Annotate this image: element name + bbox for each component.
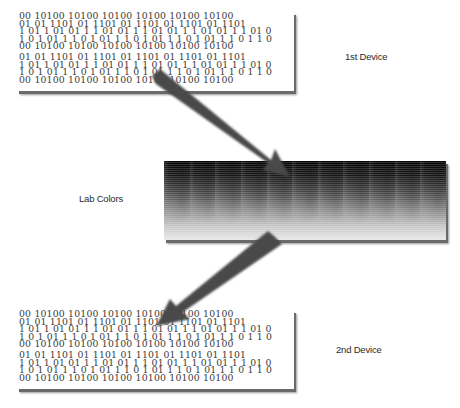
second-device-label: 2nd Device: [336, 344, 382, 355]
binary-group: 00 10100 10100 10100 10100 10100 10100 0…: [17, 310, 294, 348]
lab-column: [420, 161, 446, 240]
first-device-label: 1st Device: [345, 51, 387, 62]
binary-group: 01 01 1101 01 1101 01 1101 01 1101 01 11…: [17, 351, 294, 381]
lab-column: [292, 161, 318, 240]
binary-group: 01 01 1101 01 1101 01 1101 01 1101 01 11…: [17, 53, 294, 83]
lab-column: [267, 161, 293, 240]
binary-group: 00 10100 10100 10100 10100 10100 10100 0…: [17, 12, 294, 50]
second-device-data-card: 00 10100 10100 10100 10100 10100 10100 0…: [17, 310, 294, 389]
first-device-data-card: 00 10100 10100 10100 10100 10100 10100 0…: [17, 12, 294, 91]
lab-column: [369, 161, 395, 240]
lab-column: [164, 161, 190, 240]
lab-column: [395, 161, 421, 240]
lab-columns: [164, 161, 446, 240]
lab-column: [190, 161, 216, 240]
lab-column: [215, 161, 241, 240]
lab-colors-gradient-box: [164, 161, 446, 240]
lab-colors-label: Lab Colors: [79, 193, 123, 204]
lab-column: [343, 161, 369, 240]
lab-column: [318, 161, 344, 240]
lab-column: [241, 161, 267, 240]
